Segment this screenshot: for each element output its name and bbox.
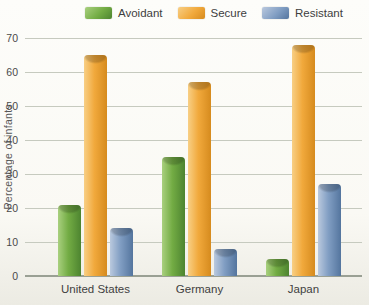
bar-chart-figure: AvoidantSecureResistant Percentage of in… [0,0,369,305]
y-tick-label-50: 50 [0,100,18,112]
bar-united-states-secure [84,55,107,276]
plot-area [25,38,362,276]
legend-item-avoidant: Avoidant [85,7,163,19]
bar-japan-avoidant [266,259,289,276]
y-tick-label-0: 0 [0,270,18,282]
bar-japan-resistant [318,184,341,276]
y-tick-label-10: 10 [0,236,18,248]
legend-swatch-avoidant [85,7,112,19]
y-tick-label-60: 60 [0,66,18,78]
y-tick-label-30: 30 [0,168,18,180]
x-axis-label-united-states: United States [41,283,151,295]
legend-label-avoidant: Avoidant [118,7,163,19]
x-axis-label-germany: Germany [145,283,255,295]
legend-swatch-secure [178,7,205,19]
chart-legend: AvoidantSecureResistant [85,7,343,19]
y-tick-label-20: 20 [0,202,18,214]
bar-united-states-resistant [110,228,133,276]
gridline-70 [25,38,362,39]
legend-label-secure: Secure [211,7,247,19]
legend-item-secure: Secure [178,7,247,19]
bar-germany-resistant [214,249,237,276]
x-axis-label-japan: Japan [249,283,359,295]
legend-swatch-resistant [262,7,289,19]
y-tick-label-70: 70 [0,32,18,44]
legend-item-resistant: Resistant [262,7,343,19]
legend-label-resistant: Resistant [295,7,343,19]
bar-germany-secure [188,82,211,276]
x-axis-labels: United StatesGermanyJapan [25,283,362,299]
y-tick-label-40: 40 [0,134,18,146]
bar-united-states-avoidant [58,205,81,276]
y-axis-ticks: 010203040506070 [0,38,21,276]
bar-germany-avoidant [162,157,185,276]
bar-japan-secure [292,45,315,276]
